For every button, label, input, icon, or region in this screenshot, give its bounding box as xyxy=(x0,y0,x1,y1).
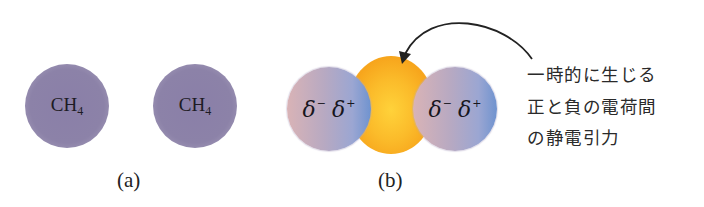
annotation-text: 一時的に生じる 正と負の電荷間 の静電引力 xyxy=(527,60,657,155)
annotation-line-3: の静電引力 xyxy=(527,123,657,155)
annotation-line-2: 正と負の電荷間 xyxy=(527,92,657,124)
annotation-line-1: 一時的に生じる xyxy=(527,60,657,92)
